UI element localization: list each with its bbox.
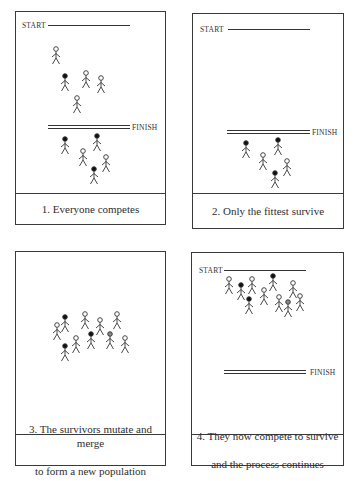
stick-figure-icon [283,159,291,176]
stick-figure-icon [248,277,256,294]
stick-figure-icon [52,47,60,64]
stick-figure-icon [271,171,279,188]
stick-figure-icon [296,294,304,311]
stick-figure-icon [73,96,81,113]
stick-figure-icon [72,336,80,353]
stick-figure-icon [284,300,292,317]
stick-figure-icon [225,277,233,294]
stick-figure-icon [61,344,69,361]
stick-figure-icon [96,318,104,335]
stick-figure-icon [245,297,253,314]
stick-figures-layer [0,0,356,481]
stick-figure-icon [121,336,129,353]
stick-figure-icon [93,134,101,151]
stick-figure-icon [237,283,245,300]
stick-figure-icon [259,153,267,170]
stick-figure-icon [79,149,87,166]
stick-figure-icon [97,76,105,93]
stick-figure-icon [90,167,98,184]
stick-figure-icon [242,141,250,158]
stick-figure-icon [61,315,69,332]
stick-figure-icon [106,332,114,349]
stick-figure-icon [53,323,61,340]
stick-figure-icon [289,281,297,298]
stick-figure-icon [275,295,283,312]
stick-figure-icon [87,332,95,349]
stick-figure-icon [82,71,90,88]
stick-figure-icon [260,288,268,305]
stick-figure-icon [269,274,277,291]
stick-figure-icon [61,74,69,91]
stick-figure-icon [81,312,89,329]
stick-figure-icon [61,137,69,154]
stick-figure-icon [102,155,110,172]
stick-figure-icon [113,312,121,329]
stick-figure-icon [274,138,282,155]
